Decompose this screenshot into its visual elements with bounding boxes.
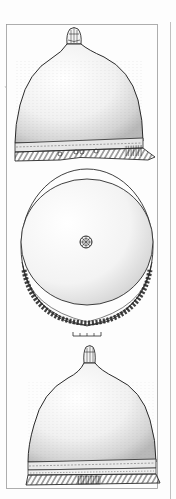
scale-bar (73, 332, 101, 336)
helmet-illustration (0, 0, 176, 499)
knob-finial-icon (84, 346, 96, 364)
figure-page (0, 0, 176, 499)
rosette-icon (80, 236, 92, 248)
side-view-top (15, 28, 155, 162)
scan-mark (5, 86, 6, 88)
side-view-bottom (26, 346, 160, 486)
knob-finial-icon (67, 28, 81, 45)
top-view (21, 169, 153, 326)
